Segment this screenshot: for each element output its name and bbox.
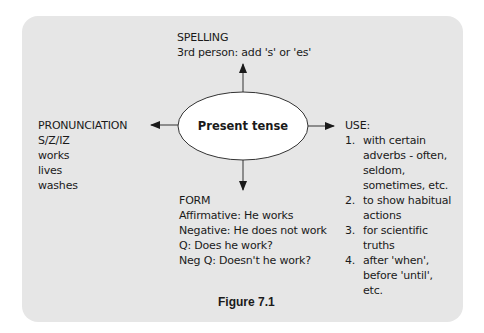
spelling-block: SPELLING 3rd person: add 's' or 'es' [177, 30, 311, 60]
use-item-number: 4. [345, 253, 355, 268]
pronunciation-line: S/Z/IZ [38, 133, 127, 148]
use-list-item: 2. to show habitual actions [345, 193, 451, 223]
center-node-label: Present tense [178, 92, 308, 160]
pronunciation-line: lives [38, 163, 127, 178]
pronunciation-line: works [38, 148, 127, 163]
use-item-number: 1. [345, 133, 355, 148]
use-item-text: seldom, [363, 163, 451, 178]
use-item-text: after 'when', [363, 253, 451, 268]
form-title: FORM [179, 193, 327, 208]
use-item-text: adverbs - often, [363, 148, 451, 163]
spelling-title: SPELLING [177, 30, 311, 45]
use-item-text: with certain [363, 133, 451, 148]
use-list-item: 3. for scientific truths [345, 223, 451, 253]
spelling-line: 3rd person: add 's' or 'es' [177, 45, 311, 60]
pronunciation-line: washes [38, 178, 127, 193]
use-item-text: truths [363, 238, 451, 253]
use-item-text: sometimes, etc. [363, 178, 451, 193]
use-item-text: actions [363, 208, 451, 223]
form-line-affirmative: Affirmative: He works [179, 208, 327, 223]
use-item-text: to show habitual [363, 193, 451, 208]
figure-caption: Figure 7.1 [218, 295, 275, 309]
use-item-text: for scientific [363, 223, 451, 238]
use-list: 1. with certain adverbs - often, seldom,… [345, 133, 451, 298]
form-line-negative: Negative: He does not work [179, 223, 327, 238]
form-line-negative-question: Neg Q: Doesn't he work? [179, 253, 327, 268]
pronunciation-title: PRONUNCIATION [38, 118, 127, 133]
use-item-number: 3. [345, 223, 355, 238]
form-line-question: Q: Does he work? [179, 238, 327, 253]
use-item-number: 2. [345, 193, 355, 208]
use-item-text: etc. [363, 283, 451, 298]
pronunciation-block: PRONUNCIATION S/Z/IZ works lives washes [38, 118, 127, 193]
use-block: USE: 1. with certain adverbs - often, se… [345, 118, 451, 298]
use-title: USE: [345, 118, 451, 133]
use-item-text: before 'until', [363, 268, 451, 283]
use-list-item: 4. after 'when', before 'until', etc. [345, 253, 451, 298]
use-list-item: 1. with certain adverbs - often, seldom,… [345, 133, 451, 193]
form-block: FORM Affirmative: He works Negative: He … [179, 193, 327, 268]
